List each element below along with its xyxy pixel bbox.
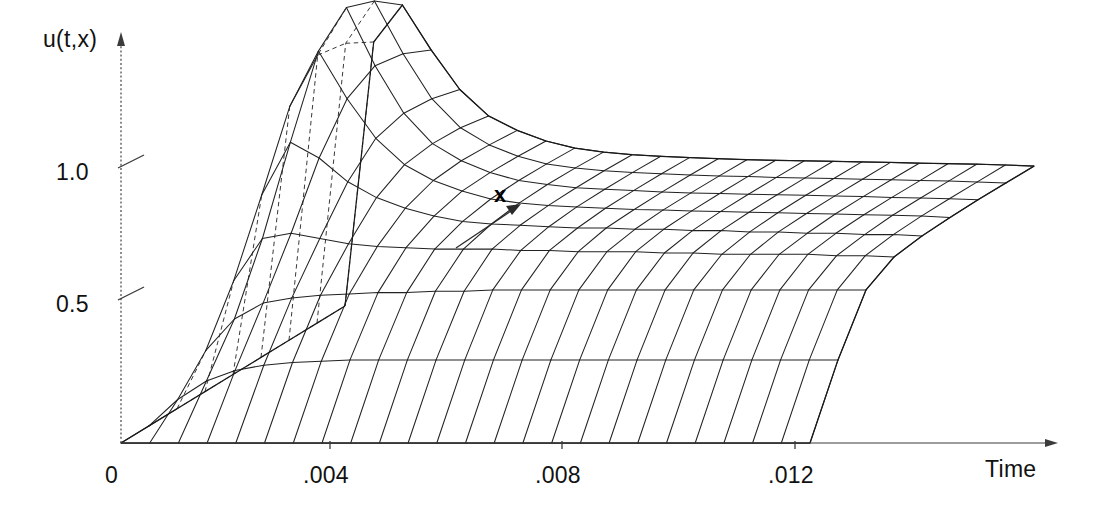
mesh-line bbox=[662, 175, 690, 192]
mesh-line bbox=[863, 180, 891, 197]
mesh-visible-lines bbox=[121, 1, 1034, 443]
mesh-line bbox=[779, 214, 807, 232]
mesh-line bbox=[519, 185, 547, 203]
mesh-line bbox=[607, 229, 635, 251]
mesh-line bbox=[636, 253, 664, 290]
mesh-line bbox=[322, 360, 350, 443]
mesh-line bbox=[576, 171, 604, 188]
mesh-line bbox=[694, 254, 722, 290]
mesh-line bbox=[778, 195, 806, 212]
mesh-line bbox=[519, 164, 547, 181]
mesh-line bbox=[349, 246, 377, 294]
mesh-line bbox=[605, 172, 633, 189]
mesh-line bbox=[837, 256, 865, 290]
mesh-line bbox=[691, 176, 719, 193]
mesh-line bbox=[578, 228, 606, 252]
mesh-line bbox=[490, 156, 518, 172]
mesh-line bbox=[663, 193, 691, 210]
ytick-1.0 bbox=[118, 155, 144, 168]
y-axis-label: u(t,x) bbox=[43, 26, 97, 52]
mesh-line bbox=[436, 291, 464, 360]
mesh-line bbox=[435, 221, 463, 249]
mesh-line bbox=[692, 194, 720, 211]
mesh-line bbox=[461, 145, 489, 161]
mesh-line bbox=[433, 161, 461, 181]
depth-axis-label: x bbox=[494, 182, 507, 207]
mesh-line bbox=[374, 1, 1006, 183]
mesh-hidden-lines bbox=[177, 1, 402, 409]
mesh-line bbox=[461, 116, 489, 128]
mesh-line bbox=[808, 233, 836, 254]
mesh-line bbox=[780, 254, 808, 290]
mesh-line bbox=[547, 148, 575, 164]
mesh-line bbox=[604, 155, 632, 171]
mesh-line bbox=[834, 162, 862, 179]
mesh-line bbox=[149, 360, 838, 426]
mesh-line bbox=[864, 197, 892, 214]
mesh-line bbox=[637, 290, 665, 360]
mesh-line bbox=[920, 164, 948, 181]
mesh-line bbox=[379, 293, 407, 360]
mesh-line bbox=[750, 213, 778, 232]
mesh-line bbox=[378, 248, 406, 293]
mesh-line bbox=[350, 293, 378, 360]
mesh-line bbox=[949, 182, 977, 199]
mesh-line bbox=[320, 182, 348, 239]
mesh-line bbox=[465, 290, 493, 360]
mesh-line bbox=[893, 216, 921, 235]
mesh-line bbox=[437, 360, 465, 443]
ytick-label-1.0: 1.0 bbox=[56, 159, 89, 185]
mesh-line bbox=[724, 360, 752, 443]
mesh-line bbox=[434, 191, 462, 216]
mesh-line bbox=[695, 360, 723, 443]
mesh-line bbox=[432, 90, 460, 99]
ytick-0.5 bbox=[118, 287, 144, 300]
mesh-line bbox=[722, 232, 750, 254]
mesh-line bbox=[721, 212, 749, 230]
mesh-line bbox=[552, 360, 580, 443]
ytick-label-0.5: 0.5 bbox=[56, 291, 89, 317]
mesh-line bbox=[236, 365, 264, 443]
mesh-line bbox=[489, 130, 517, 145]
mesh-line bbox=[664, 211, 692, 229]
mesh-line bbox=[405, 181, 433, 209]
mesh-line bbox=[753, 360, 781, 443]
mesh-line bbox=[265, 363, 293, 444]
mesh-line bbox=[835, 197, 863, 214]
mesh-line bbox=[351, 360, 379, 443]
mesh-line bbox=[865, 215, 893, 234]
mesh-line bbox=[748, 177, 776, 194]
time-axis-arrowhead bbox=[1045, 439, 1058, 447]
mesh-line bbox=[547, 168, 575, 185]
mesh-line bbox=[695, 290, 723, 360]
mesh-line bbox=[464, 249, 492, 291]
mesh-line bbox=[262, 142, 290, 238]
mesh-line bbox=[638, 360, 666, 443]
mesh-line bbox=[405, 144, 433, 165]
plot-canvas: u(t,x) Time x 1.0 0.5 0 .004 .008 .012 bbox=[0, 0, 1115, 507]
mesh-line bbox=[776, 161, 804, 178]
mesh-line bbox=[121, 306, 345, 443]
mesh-line bbox=[433, 128, 461, 144]
mesh-line bbox=[608, 290, 636, 360]
mesh-line bbox=[290, 51, 950, 217]
xtick-label-0: 0 bbox=[105, 462, 118, 488]
mesh-line bbox=[408, 360, 436, 443]
mesh-line bbox=[234, 195, 262, 281]
mesh-line bbox=[580, 290, 608, 360]
mesh-line bbox=[606, 210, 634, 229]
mesh-line bbox=[578, 208, 606, 228]
mesh-line bbox=[206, 290, 866, 351]
mesh-line bbox=[403, 50, 431, 54]
mesh-line bbox=[293, 361, 321, 443]
mesh-line bbox=[609, 360, 637, 443]
mesh-line bbox=[779, 233, 807, 254]
mesh-line bbox=[634, 174, 662, 191]
mesh-line bbox=[379, 360, 407, 443]
mesh-line bbox=[550, 252, 578, 290]
x-label-leader-line bbox=[456, 209, 514, 248]
mesh-line bbox=[752, 290, 780, 360]
mesh-line bbox=[206, 281, 234, 351]
mesh-line bbox=[977, 165, 1005, 182]
mesh-line bbox=[522, 250, 550, 290]
